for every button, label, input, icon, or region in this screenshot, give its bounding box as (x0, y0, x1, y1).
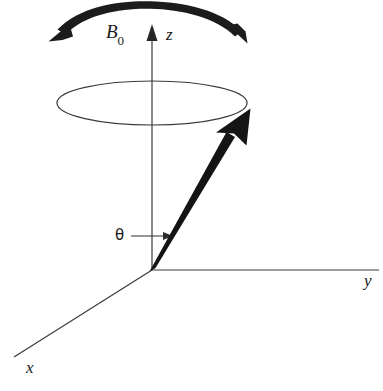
magnetization-vector-shaft (150, 132, 236, 272)
precession-arc-band (58, 1, 242, 36)
angle-label: θ (115, 228, 124, 243)
magnetic-field-symbol: B (106, 21, 118, 42)
z-axis-arrowhead-icon (147, 24, 158, 41)
z-axis-label: z (166, 26, 173, 43)
x-axis-line (14, 270, 152, 357)
magnetic-field-subscript: 0 (118, 33, 125, 48)
x-axis-label: x (26, 359, 34, 376)
physics-diagram-canvas: B0 z y x θ (0, 0, 383, 391)
y-axis-label: y (364, 272, 372, 289)
diagram-vector-graphics (0, 0, 383, 391)
magnetic-field-label: B0 (106, 22, 124, 45)
precession-arc-right-arrowhead-icon (228, 24, 248, 44)
